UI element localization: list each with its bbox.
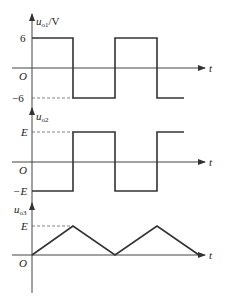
tick-neg6: −6 <box>12 92 24 104</box>
origin-label-uo2: O <box>19 164 27 176</box>
t-label-uo1: t <box>209 62 213 74</box>
tick-E-uo2: E <box>20 126 28 138</box>
y-label-uo2: uo2 <box>36 110 49 124</box>
tick-E-uo3: E <box>20 220 28 232</box>
origin-label-uo3: O <box>19 257 27 269</box>
origin-label-uo1: O <box>19 70 27 82</box>
waveform-diagram: uo1/V 6 O −6 t uo2 E O −E t uo3 E O t <box>0 0 228 305</box>
t-label-uo2: t <box>209 156 213 168</box>
plot-uo1: uo1/V 6 O −6 t <box>12 14 213 112</box>
tick-6: 6 <box>20 32 26 44</box>
triangle-wave-uo3 <box>32 226 199 255</box>
y-label-uo1: uo1/V <box>36 15 60 29</box>
y-label-uo3: uo3 <box>14 203 27 217</box>
plot-uo2: uo2 E O −E t <box>12 108 213 204</box>
t-label-uo3: t <box>209 249 213 261</box>
tick-negE: −E <box>13 185 27 197</box>
plot-uo3: uo3 E O t <box>12 203 213 293</box>
